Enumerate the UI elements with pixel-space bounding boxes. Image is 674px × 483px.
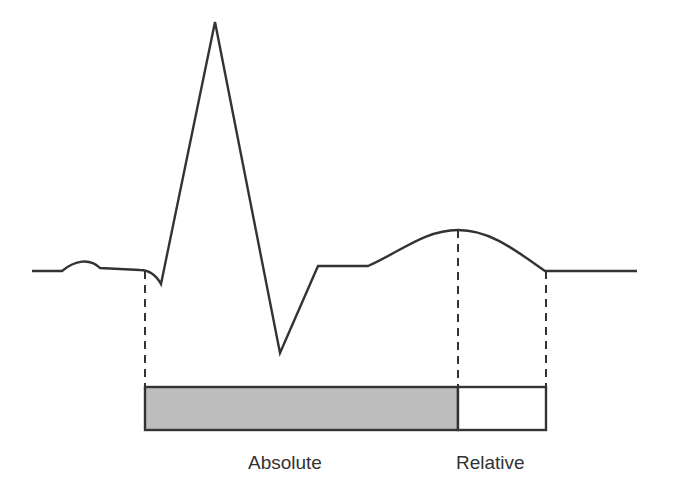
relative-label: Relative	[456, 452, 525, 474]
relative-period-bar	[458, 387, 546, 430]
absolute-label: Absolute	[248, 452, 322, 474]
absolute-period-bar	[145, 387, 458, 430]
ecg-diagram	[0, 0, 674, 483]
